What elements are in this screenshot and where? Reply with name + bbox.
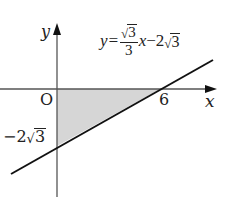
y-axis-label: y — [41, 24, 50, 40]
y-intercept-coefficient: −2 — [3, 129, 27, 145]
equation-variable: x — [139, 31, 147, 51]
sqrt-symbol: √ 3 — [27, 128, 46, 145]
sqrt-symbol: √ 3 — [164, 33, 180, 50]
origin-label: O — [40, 92, 53, 108]
y-intercept-radicand: 3 — [34, 128, 46, 145]
graph-line — [11, 60, 213, 174]
sqrt-symbol: √ 3 — [121, 24, 137, 40]
x-intercept-label: 6 — [159, 92, 169, 108]
intercept-radicand: 3 — [170, 33, 180, 50]
slope-fraction: √ 3 3 — [120, 24, 138, 59]
slope-numerator: √ 3 — [120, 24, 138, 43]
y-axis-arrow-icon — [53, 23, 61, 35]
equation-constant-coefficient: −2 — [146, 31, 164, 51]
slope-radicand: 3 — [127, 24, 137, 40]
x-axis-label: x — [205, 93, 215, 110]
slope-denominator: 3 — [125, 43, 133, 59]
equation-lhs: y= — [100, 31, 119, 51]
line-equation-label: y= √ 3 3 x −2 √ 3 — [100, 24, 180, 59]
y-intercept-label: −2 √ 3 — [3, 128, 46, 145]
